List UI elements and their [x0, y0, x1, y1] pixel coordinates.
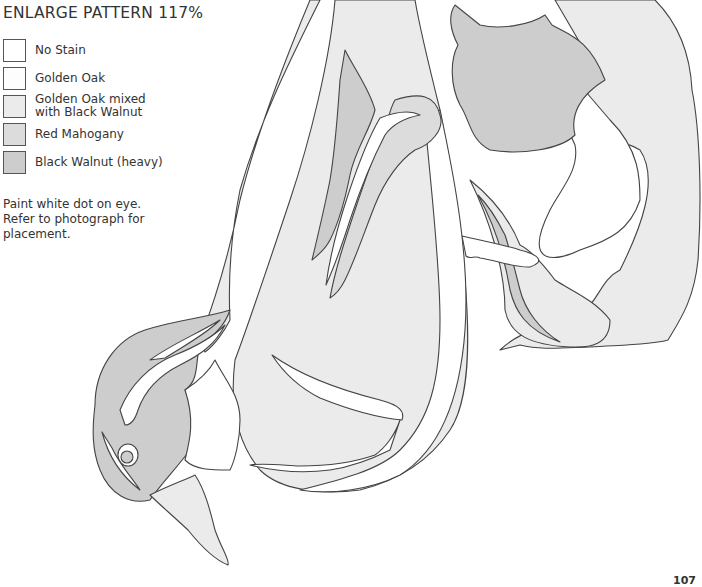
page-number: 107: [673, 574, 696, 587]
swatch-red-mahogany: [3, 123, 26, 146]
legend-item-golden-oak: Golden Oak: [3, 64, 163, 92]
legend-label: No Stain: [35, 44, 86, 57]
legend-label: Red Mahogany: [35, 128, 124, 141]
stain-legend: No Stain Golden Oak Golden Oak mixed wit…: [3, 36, 163, 176]
legend-item-no-stain: No Stain: [3, 36, 163, 64]
swatch-golden-oak: [3, 67, 26, 90]
swatch-golden-oak-mixed: [3, 95, 26, 118]
legend-label-line2: with Black Walnut: [35, 106, 146, 119]
note-line: Refer to photograph for: [3, 212, 144, 227]
legend-label: Golden Oak mixed with Black Walnut: [35, 93, 146, 119]
note-line: Paint white dot on eye.: [3, 197, 144, 212]
legend-item-golden-oak-mixed: Golden Oak mixed with Black Walnut: [3, 92, 163, 120]
beak: [150, 475, 228, 565]
swatch-no-stain: [3, 39, 26, 62]
swatch-black-walnut: [3, 151, 26, 174]
page-title: ENLARGE PATTERN 117%: [3, 4, 203, 22]
legend-label: Black Walnut (heavy): [35, 156, 163, 169]
painting-note: Paint white dot on eye. Refer to photogr…: [3, 197, 144, 242]
note-line: placement.: [3, 227, 144, 242]
eye: [121, 451, 133, 463]
legend-label: Golden Oak: [35, 72, 105, 85]
legend-item-black-walnut: Black Walnut (heavy): [3, 148, 163, 176]
legend-item-red-mahogany: Red Mahogany: [3, 120, 163, 148]
